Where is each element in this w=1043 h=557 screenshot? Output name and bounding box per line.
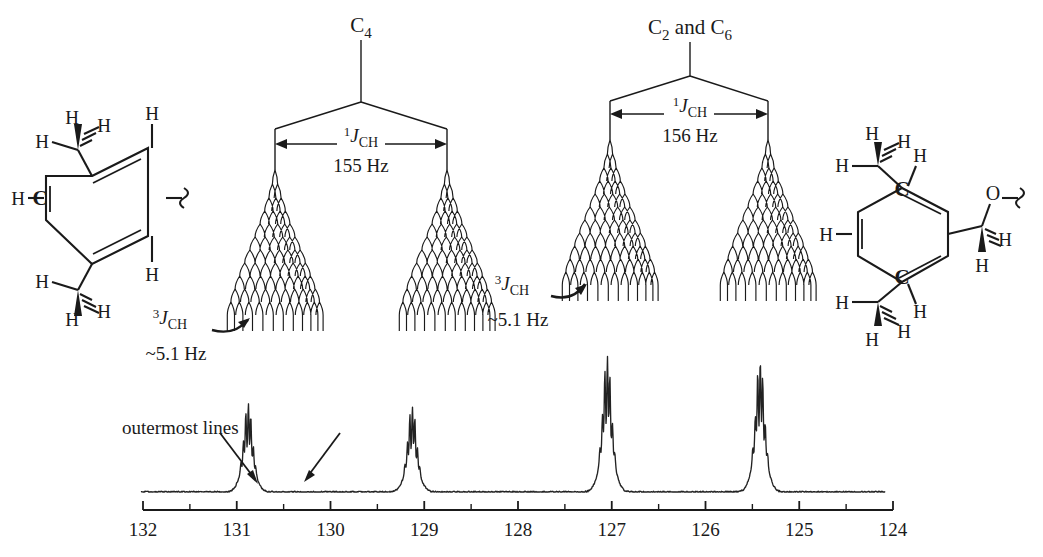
j1-value-right: 156 Hz xyxy=(662,125,717,146)
j3-label-left: 3JCH xyxy=(153,306,187,332)
j1-value-left: 155 Hz xyxy=(333,155,388,176)
atom-label-h: H xyxy=(865,329,879,350)
axis-tick-label: 129 xyxy=(410,519,439,540)
atom-label-h: H xyxy=(913,145,927,166)
axis-tick-label: 131 xyxy=(223,519,252,540)
axis-tick-label: 126 xyxy=(691,519,720,540)
j1-label-right: 1JCH xyxy=(673,94,707,120)
benzene-ring-left xyxy=(46,148,148,264)
atom-label-h: H xyxy=(97,115,111,136)
atom-label-h: H xyxy=(998,229,1012,250)
arrow-outermost-2 xyxy=(308,433,340,476)
tree-fan-right xyxy=(562,140,816,301)
atom-label-h: H xyxy=(913,301,927,322)
axis-tick-label: 128 xyxy=(504,519,533,540)
coupling-tree-left xyxy=(212,40,495,332)
atom-label-h: H xyxy=(975,255,989,276)
atom-label-h: H xyxy=(865,123,879,144)
axis-tick-label: 130 xyxy=(316,519,345,540)
coupling-tree-right-text: C2 and C6 1JCH 156 Hz 3JCH ~5.1 Hz xyxy=(488,15,733,330)
structure-left xyxy=(28,124,188,316)
atom-label-oxygen: O xyxy=(986,182,1000,204)
atom-label-h: H xyxy=(65,107,79,128)
atom-label-h: H xyxy=(835,292,849,313)
j1-label-left: 1JCH xyxy=(344,124,378,150)
coupling-tree-right xyxy=(551,42,816,301)
tree-title-left: C4 xyxy=(350,13,372,41)
structure-right xyxy=(836,142,1024,326)
atom-label-h: H xyxy=(35,131,49,152)
bond-ch3-h-bottom xyxy=(52,282,78,290)
bond-ring-ch xyxy=(948,226,982,234)
atom-label-h: H xyxy=(11,188,25,209)
ppm-axis xyxy=(143,501,893,510)
figure-canvas: H H H H H C H H H H xyxy=(0,0,1043,557)
coupling-tree-left-text: C4 1JCH 155 Hz 3JCH ~5.1 Hz xyxy=(146,13,389,364)
atom-label-h: H xyxy=(835,155,849,176)
axis-tick-label: 125 xyxy=(785,519,814,540)
atom-label-h: H xyxy=(897,131,911,152)
axis-tick-labels: 132131130129128127126125124 xyxy=(129,519,908,540)
j3-value-left: ~5.1 Hz xyxy=(146,343,207,364)
tree-branch-left-2 xyxy=(361,102,447,129)
atom-label-h: H xyxy=(897,321,911,342)
outermost-lines-label: outermost lines xyxy=(122,417,239,438)
atom-label-h: H xyxy=(819,224,833,245)
atom-label-carbon-c6: C xyxy=(894,265,909,289)
atom-label-h: H xyxy=(145,103,159,124)
j3-label-right: 3JCH xyxy=(495,272,529,298)
bond-methyl-top xyxy=(78,150,92,176)
tree-title-right: C2 and C6 xyxy=(648,15,732,43)
atom-label-h: H xyxy=(145,264,159,285)
outermost-lines-annotation xyxy=(220,433,340,484)
j3-value-right: ~5.1 Hz xyxy=(488,309,549,330)
atom-label-h: H xyxy=(97,301,111,322)
axis-ticks xyxy=(143,501,893,510)
axis-tick-label: 127 xyxy=(598,519,627,540)
tree-fan-left-a xyxy=(227,170,495,331)
axis-tick-label: 124 xyxy=(879,519,908,540)
atom-label-h: H xyxy=(65,309,79,330)
bond-ch3-h xyxy=(52,142,78,150)
bond-ch-o xyxy=(982,204,990,226)
arrowhead-2 xyxy=(304,470,315,482)
atom-label-carbon: C xyxy=(32,186,47,210)
axis-tick-label: 132 xyxy=(129,519,158,540)
atom-label-h: H xyxy=(35,271,49,292)
atom-label-carbon-c2: C xyxy=(894,177,909,201)
bond-methyl-bottom xyxy=(78,264,92,290)
tree-branch-right-2 xyxy=(690,76,768,101)
nmr-figure: H H H H H C H H H H xyxy=(0,0,1043,557)
